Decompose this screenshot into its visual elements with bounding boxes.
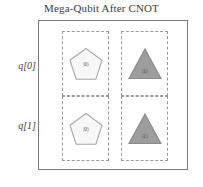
pentagon-marker-q1-state0: |0⟩	[69, 112, 103, 146]
qubit-state-figure: Mega-Qubit After CNOT q[0] q[1] |0⟩ |1⟩ …	[0, 0, 203, 187]
row-label-axis: q[0] q[1]	[0, 0, 36, 187]
pentagon-state-label-q0: |0⟩	[69, 47, 103, 81]
triangle-marker-q1-state1: |1⟩	[128, 112, 162, 146]
plot-frame	[38, 20, 188, 170]
triangle-state-label-q1: |1⟩	[128, 112, 162, 146]
row-label-q1: q[1]	[2, 120, 36, 131]
pentagon-state-label-q1: |0⟩	[69, 112, 103, 146]
pentagon-marker-q0-state0: |0⟩	[69, 47, 103, 81]
row-label-q0: q[0]	[2, 60, 36, 71]
triangle-state-label-q0: |1⟩	[128, 47, 162, 81]
triangle-marker-q0-state1: |1⟩	[128, 47, 162, 81]
